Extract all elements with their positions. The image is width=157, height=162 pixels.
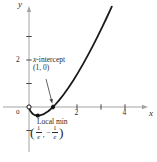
leader-arrow-head bbox=[50, 99, 53, 104]
y-axis-label: y bbox=[18, 0, 22, 9]
plot-svg bbox=[0, 0, 157, 162]
fraction-1-denominator: e bbox=[36, 133, 42, 140]
x-tick-label-4: 4 bbox=[123, 109, 127, 117]
local-min-annotation-coords: ( 1e , − 1e ) bbox=[30, 125, 64, 140]
x-axis-label: x bbox=[149, 109, 153, 118]
open-paren: ( bbox=[30, 125, 35, 139]
figure-container: y x 0 x-intercept (1, 0) Local min ( 1e … bbox=[0, 0, 157, 162]
fraction-2-numerator: 1 bbox=[52, 125, 58, 133]
x-intercept-point bbox=[51, 105, 55, 109]
x-axis-head bbox=[142, 105, 148, 109]
origin-point bbox=[27, 105, 31, 109]
fraction-one-over-e-2: 1e bbox=[52, 125, 58, 140]
origin-label: 0 bbox=[16, 109, 20, 116]
comma-separator: , bbox=[43, 131, 45, 139]
leader-arrow-line bbox=[46, 79, 51, 99]
y-tick-label-2: 2 bbox=[16, 56, 20, 64]
x-intercept-annotation-coords: (1, 0) bbox=[33, 64, 49, 72]
x-tick-label-2: 2 bbox=[75, 109, 79, 117]
y-axis-head bbox=[27, 6, 31, 12]
minus-sign: − bbox=[46, 129, 50, 137]
fraction-one-over-e-1: 1e bbox=[36, 125, 42, 140]
fraction-1-numerator: 1 bbox=[36, 125, 42, 133]
close-paren: ) bbox=[59, 125, 64, 139]
fraction-2-denominator: e bbox=[52, 133, 58, 140]
